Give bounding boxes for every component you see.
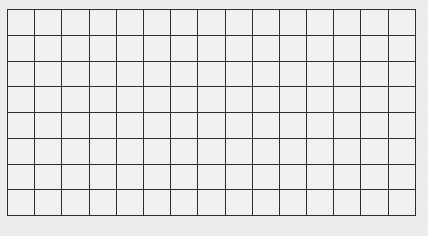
- grid-cell[interactable]: [35, 87, 62, 113]
- grid-cell[interactable]: [334, 35, 361, 61]
- grid-cell[interactable]: [62, 138, 89, 164]
- grid-cell[interactable]: [8, 87, 35, 113]
- grid-cell[interactable]: [35, 61, 62, 87]
- grid-cell[interactable]: [171, 113, 198, 139]
- grid-cell[interactable]: [62, 35, 89, 61]
- grid-cell[interactable]: [388, 10, 415, 36]
- grid-cell[interactable]: [171, 35, 198, 61]
- grid-cell[interactable]: [89, 61, 116, 87]
- grid-cell[interactable]: [89, 10, 116, 36]
- grid-cell[interactable]: [225, 164, 252, 190]
- grid-cell[interactable]: [279, 87, 306, 113]
- grid-cell[interactable]: [116, 87, 143, 113]
- grid-cell[interactable]: [334, 113, 361, 139]
- grid-cell[interactable]: [307, 10, 334, 36]
- grid-cell[interactable]: [307, 138, 334, 164]
- grid-cell[interactable]: [35, 138, 62, 164]
- grid-cell[interactable]: [35, 35, 62, 61]
- grid-cell[interactable]: [198, 138, 225, 164]
- grid-cell[interactable]: [252, 164, 279, 190]
- grid-cell[interactable]: [252, 87, 279, 113]
- grid-cell[interactable]: [307, 190, 334, 216]
- grid-cell[interactable]: [143, 164, 170, 190]
- grid-cell[interactable]: [198, 35, 225, 61]
- grid-cell[interactable]: [388, 164, 415, 190]
- grid-cell[interactable]: [334, 61, 361, 87]
- grid-cell[interactable]: [279, 164, 306, 190]
- grid-cell[interactable]: [143, 87, 170, 113]
- grid-cell[interactable]: [361, 87, 388, 113]
- grid-cell[interactable]: [62, 61, 89, 87]
- grid-cell[interactable]: [361, 190, 388, 216]
- grid-cell[interactable]: [279, 138, 306, 164]
- grid-cell[interactable]: [89, 35, 116, 61]
- grid-cell[interactable]: [334, 138, 361, 164]
- grid-cell[interactable]: [388, 190, 415, 216]
- grid-cell[interactable]: [89, 138, 116, 164]
- grid-cell[interactable]: [361, 138, 388, 164]
- grid-cell[interactable]: [116, 10, 143, 36]
- grid-cell[interactable]: [279, 35, 306, 61]
- grid-cell[interactable]: [35, 10, 62, 36]
- grid-cell[interactable]: [388, 113, 415, 139]
- grid-cell[interactable]: [171, 87, 198, 113]
- grid-cell[interactable]: [89, 87, 116, 113]
- grid-cell[interactable]: [334, 190, 361, 216]
- grid-cell[interactable]: [361, 35, 388, 61]
- grid-cell[interactable]: [388, 61, 415, 87]
- grid-cell[interactable]: [171, 61, 198, 87]
- grid-cell[interactable]: [8, 10, 35, 36]
- grid-cell[interactable]: [388, 35, 415, 61]
- grid-cell[interactable]: [279, 10, 306, 36]
- grid-cell[interactable]: [361, 10, 388, 36]
- grid-cell[interactable]: [116, 35, 143, 61]
- grid-cell[interactable]: [143, 10, 170, 36]
- grid-cell[interactable]: [225, 113, 252, 139]
- grid-cell[interactable]: [143, 113, 170, 139]
- grid-cell[interactable]: [89, 190, 116, 216]
- grid-cell[interactable]: [252, 190, 279, 216]
- grid-cell[interactable]: [35, 190, 62, 216]
- grid-cell[interactable]: [8, 164, 35, 190]
- grid-cell[interactable]: [198, 190, 225, 216]
- grid-cell[interactable]: [143, 35, 170, 61]
- grid-cell[interactable]: [62, 113, 89, 139]
- grid-cell[interactable]: [388, 138, 415, 164]
- grid-cell[interactable]: [225, 190, 252, 216]
- grid-cell[interactable]: [252, 138, 279, 164]
- grid-cell[interactable]: [198, 10, 225, 36]
- grid-cell[interactable]: [225, 61, 252, 87]
- grid-cell[interactable]: [361, 164, 388, 190]
- grid-cell[interactable]: [279, 61, 306, 87]
- grid-cell[interactable]: [252, 61, 279, 87]
- grid-cell[interactable]: [307, 35, 334, 61]
- grid-cell[interactable]: [279, 190, 306, 216]
- grid-cell[interactable]: [252, 113, 279, 139]
- grid-cell[interactable]: [62, 190, 89, 216]
- grid-cell[interactable]: [35, 164, 62, 190]
- grid-cell[interactable]: [252, 10, 279, 36]
- grid-cell[interactable]: [143, 61, 170, 87]
- grid-cell[interactable]: [62, 87, 89, 113]
- grid-cell[interactable]: [89, 164, 116, 190]
- grid-cell[interactable]: [8, 61, 35, 87]
- grid-cell[interactable]: [307, 113, 334, 139]
- grid-cell[interactable]: [143, 138, 170, 164]
- grid-cell[interactable]: [279, 113, 306, 139]
- grid-cell[interactable]: [8, 138, 35, 164]
- grid-cell[interactable]: [116, 61, 143, 87]
- grid-cell[interactable]: [89, 113, 116, 139]
- grid-cell[interactable]: [361, 113, 388, 139]
- grid-cell[interactable]: [225, 35, 252, 61]
- grid-cell[interactable]: [171, 10, 198, 36]
- grid-cell[interactable]: [225, 10, 252, 36]
- grid-cell[interactable]: [8, 35, 35, 61]
- grid-cell[interactable]: [307, 164, 334, 190]
- grid-cell[interactable]: [252, 35, 279, 61]
- grid-cell[interactable]: [334, 164, 361, 190]
- grid-cell[interactable]: [116, 164, 143, 190]
- grid-cell[interactable]: [225, 138, 252, 164]
- grid-cell[interactable]: [361, 61, 388, 87]
- grid-cell[interactable]: [62, 10, 89, 36]
- grid-cell[interactable]: [334, 87, 361, 113]
